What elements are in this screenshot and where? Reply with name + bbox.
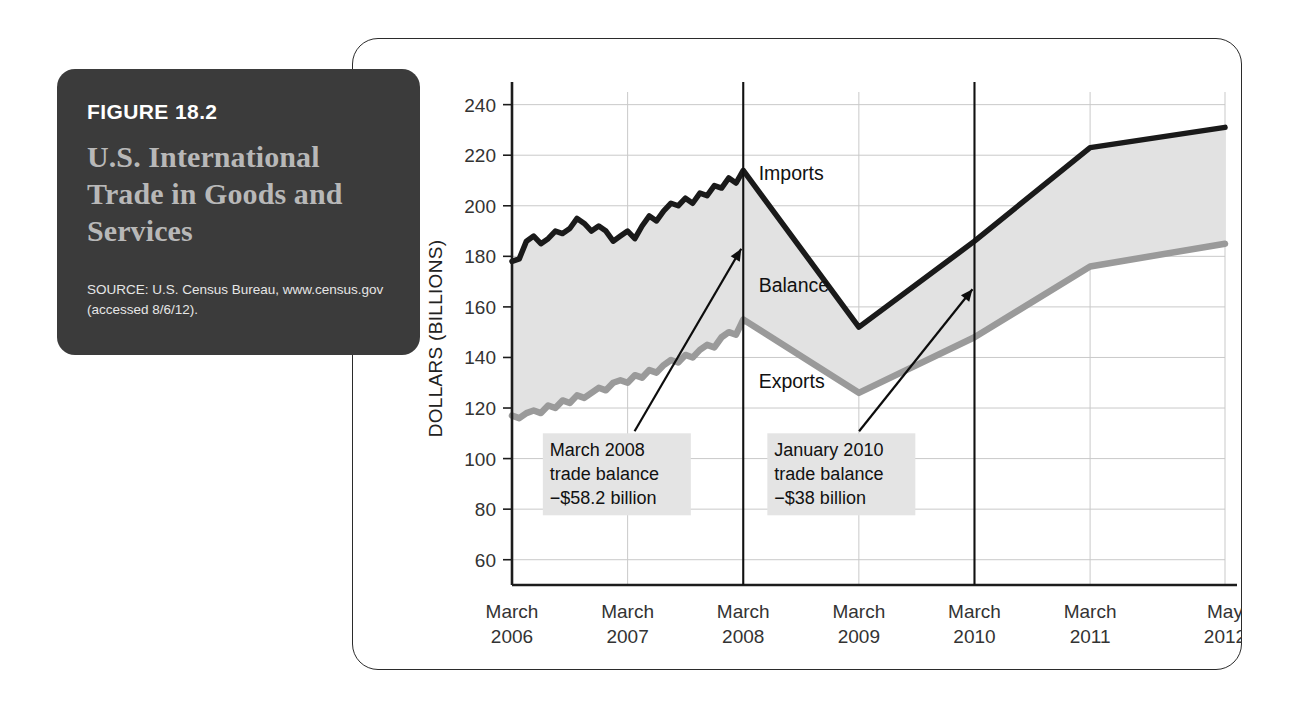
x-tick-label-year: 2009 <box>838 626 880 647</box>
exports-label: Exports <box>759 370 825 392</box>
y-tick-label: 160 <box>464 297 496 318</box>
x-tick-label-month: March <box>948 601 1001 622</box>
y-axis-title: DOLLARS (BILLIONS) <box>425 240 446 438</box>
x-tick-label-year: 2011 <box>1070 626 1111 647</box>
callout-line-march-2008: −$58.2 billion <box>550 488 657 508</box>
figure-caption-panel: FIGURE 18.2 U.S. International Trade in … <box>57 69 420 355</box>
callout-line-january-2010: trade balance <box>774 464 883 484</box>
y-tick-label: 180 <box>464 246 496 267</box>
x-tick-label-year: 2007 <box>606 626 648 647</box>
y-tick-label: 140 <box>464 347 496 368</box>
figure-source: SOURCE: U.S. Census Bureau, www.census.g… <box>87 280 390 321</box>
x-tick-label-year: 2012 <box>1204 626 1242 647</box>
callout-line-march-2008: trade balance <box>550 464 659 484</box>
y-tick-label: 120 <box>464 398 496 419</box>
balance-label: Balance <box>759 274 829 296</box>
callout-line-march-2008: March 2008 <box>550 440 645 460</box>
balance-band-group <box>512 127 1225 418</box>
trade-balance-chart: 6080100120140160180200220240DOLLARS (BIL… <box>352 38 1242 670</box>
y-tick-label: 200 <box>464 196 496 217</box>
chart-container: 6080100120140160180200220240DOLLARS (BIL… <box>352 38 1242 670</box>
y-tick-label: 80 <box>475 499 496 520</box>
figure-title: U.S. International Trade in Goods and Se… <box>87 138 390 250</box>
y-tick-label: 240 <box>464 95 496 116</box>
x-tick-label-year: 2008 <box>722 626 764 647</box>
y-tick-label: 220 <box>464 145 496 166</box>
imports-label: Imports <box>759 162 824 184</box>
x-tick-label-month: March <box>832 601 885 622</box>
x-tick-label-month: May <box>1207 601 1242 622</box>
x-tick-label-year: 2010 <box>953 626 995 647</box>
x-tick-label-month: March <box>1064 601 1117 622</box>
x-tick-label-month: March <box>717 601 770 622</box>
x-tick-label-year: 2006 <box>491 626 533 647</box>
callout-line-january-2010: January 2010 <box>774 440 883 460</box>
x-tick-label-month: March <box>601 601 654 622</box>
y-tick-label: 100 <box>464 449 496 470</box>
y-tick-label: 60 <box>475 550 496 571</box>
x-tick-label-month: March <box>486 601 539 622</box>
balance-area <box>512 127 1225 418</box>
figure-number: FIGURE 18.2 <box>87 100 390 124</box>
callout-line-january-2010: −$38 billion <box>774 488 866 508</box>
